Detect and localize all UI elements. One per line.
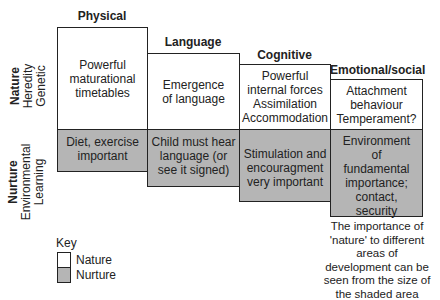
row-label-nurture: Nurture Environmental Learning	[7, 137, 49, 227]
nature-box-cognitive: Powerful internal forces Assimilation Ac…	[239, 64, 331, 130]
nature-text-cognitive: Powerful internal forces Assimilation Ac…	[242, 69, 328, 125]
nature-text-emotional-social: Attachment behaviour Temperament?	[335, 84, 419, 126]
column-title-language: Language	[147, 35, 239, 49]
column-title-emotional-social: Emotional/social	[330, 63, 422, 77]
row-label-nature: Nature Heredity Genetic	[9, 56, 51, 116]
nurture-box-cognitive: Stimulation and encouragment very import…	[239, 129, 331, 202]
nurture-box-physical: Diet, exercise important	[57, 129, 148, 172]
nature-box-emotional-social: Attachment behaviour Temperament?	[330, 79, 423, 130]
key-title: Key	[56, 236, 77, 250]
nature-text-language: Emergence of language	[159, 78, 229, 106]
nature-text-physical: Powerful maturational timetables	[65, 58, 141, 100]
key-swatch-nurture	[57, 267, 71, 283]
key-swatch-nature	[57, 252, 71, 268]
row-label-nurture-sub2: Learning	[33, 137, 46, 227]
explanatory-note: The importance of 'nature' to different …	[322, 220, 432, 300]
nurture-text-language: Child must hear language (or see it sign…	[149, 135, 239, 177]
nurture-text-cognitive: Stimulation and encouragment very import…	[242, 147, 328, 189]
nurture-box-emotional-social: Environment of fundamental importance; c…	[330, 129, 423, 217]
nature-box-language: Emergence of language	[147, 53, 240, 130]
column-title-cognitive: Cognitive	[239, 48, 330, 62]
nurture-text-emotional-social: Environment of fundamental importance; c…	[338, 134, 416, 218]
key-label-nurture: Nurture	[76, 268, 116, 282]
nurture-text-physical: Diet, exercise important	[63, 135, 143, 163]
row-label-nature-sub2: Genetic	[35, 56, 48, 116]
nature-box-physical: Powerful maturational timetables	[57, 27, 148, 130]
nurture-box-language: Child must hear language (or see it sign…	[147, 129, 240, 187]
column-title-physical: Physical	[57, 9, 147, 23]
key-label-nature: Nature	[76, 253, 112, 267]
